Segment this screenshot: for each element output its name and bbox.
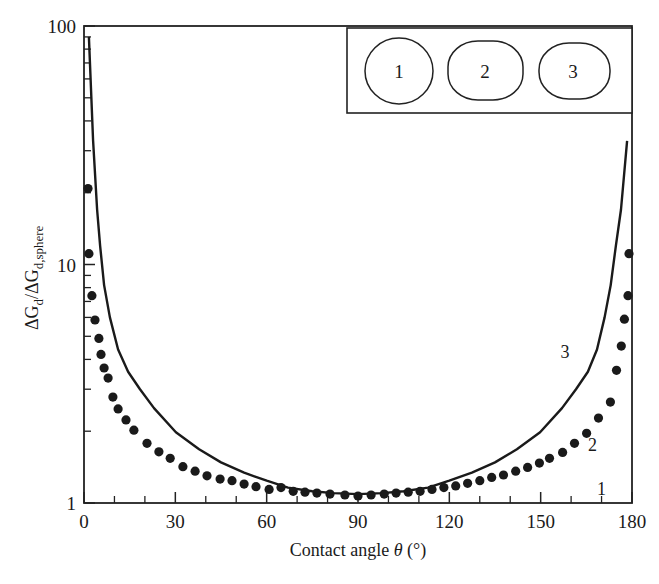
x-tick-label: 60 bbox=[257, 511, 276, 532]
series-2-point bbox=[623, 291, 632, 300]
series-2-point bbox=[416, 487, 425, 496]
series-2-point bbox=[289, 487, 298, 496]
shape-3-label: 3 bbox=[568, 61, 578, 82]
series-2-point bbox=[545, 454, 554, 463]
x-tick-label: 180 bbox=[618, 511, 647, 532]
y-axis-title: ΔGd/ΔGd,sphere bbox=[22, 225, 46, 330]
series-2-point bbox=[129, 426, 138, 435]
series-2-point bbox=[227, 476, 236, 485]
y-axis: 110100 bbox=[48, 16, 96, 514]
series-2-point bbox=[624, 249, 633, 258]
x-tick-label: 150 bbox=[526, 511, 555, 532]
series-2-dots bbox=[83, 184, 633, 501]
series-2-point bbox=[191, 467, 200, 476]
series-2-point bbox=[300, 488, 309, 497]
series-2-point bbox=[142, 439, 151, 448]
x-tick-label: 90 bbox=[349, 511, 368, 532]
series-2-point bbox=[114, 404, 123, 413]
series-2-point bbox=[499, 470, 508, 479]
series-2-point bbox=[87, 291, 96, 300]
series-2-point bbox=[427, 485, 436, 494]
series-2-point bbox=[612, 366, 621, 375]
x-tick-label: 30 bbox=[166, 511, 185, 532]
x-axis-title: Contact angle θ (°) bbox=[290, 540, 427, 561]
series-2-point bbox=[451, 481, 460, 490]
series-2-point bbox=[325, 490, 334, 499]
series-2-point bbox=[511, 467, 520, 476]
series-2-point bbox=[202, 471, 211, 480]
series-2-point bbox=[487, 473, 496, 482]
shape-1-label: 1 bbox=[394, 61, 404, 82]
series-2-point bbox=[154, 447, 163, 456]
y-tick-label: 10 bbox=[57, 255, 76, 276]
series-2-point bbox=[121, 415, 130, 424]
series-2-point bbox=[90, 315, 99, 324]
series-2-point bbox=[439, 483, 448, 492]
x-tick-label: 120 bbox=[435, 511, 464, 532]
series-2-point bbox=[558, 448, 567, 457]
y-tick-label: 1 bbox=[67, 493, 77, 514]
series-2-point bbox=[83, 184, 92, 193]
series-2-point bbox=[251, 482, 260, 491]
series-2-point bbox=[94, 334, 103, 343]
series-2-point bbox=[96, 350, 105, 359]
series-2-point bbox=[606, 398, 615, 407]
series-2-point bbox=[240, 480, 249, 489]
series-2-point bbox=[523, 463, 532, 472]
series-2-point bbox=[104, 374, 113, 383]
series-2-point bbox=[367, 490, 376, 499]
series-2-point bbox=[617, 342, 626, 351]
series-2-point bbox=[535, 459, 544, 468]
series-2-point bbox=[265, 485, 274, 494]
chart: 0306090120150180 110100 321 Contact angl… bbox=[0, 0, 659, 584]
x-axis: 0306090120150180 bbox=[79, 492, 646, 532]
series-2-point bbox=[380, 490, 389, 499]
series-2-point bbox=[463, 479, 472, 488]
x-tick-label: 0 bbox=[79, 511, 89, 532]
series-label-2: 2 bbox=[588, 435, 597, 455]
series-2-point bbox=[108, 393, 117, 402]
series-2-point bbox=[392, 489, 401, 498]
series-2-point bbox=[216, 475, 225, 484]
series-2-point bbox=[570, 439, 579, 448]
series-2-point bbox=[100, 363, 109, 372]
series-2-point bbox=[84, 249, 93, 258]
y-tick-label: 100 bbox=[48, 16, 77, 37]
series-2-point bbox=[620, 315, 629, 324]
series-2-point bbox=[312, 489, 321, 498]
series-2-point bbox=[594, 414, 603, 423]
series-label-1: 1 bbox=[597, 479, 606, 499]
series-2-point bbox=[475, 476, 484, 485]
series-label-3: 3 bbox=[561, 342, 570, 362]
series-2-point bbox=[353, 491, 362, 500]
series-2-point bbox=[404, 488, 413, 497]
series-2-point bbox=[178, 462, 187, 471]
shape-2-label: 2 bbox=[480, 61, 490, 82]
series-2-point bbox=[276, 483, 285, 492]
inset-legend: 1 2 3 bbox=[347, 28, 632, 113]
series-2-point bbox=[166, 454, 175, 463]
series-2-point bbox=[340, 490, 349, 499]
